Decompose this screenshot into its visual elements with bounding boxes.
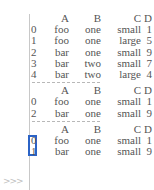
cell-c: small: [103, 108, 141, 119]
cell-a: foo: [39, 35, 69, 46]
cell-a: foo: [39, 96, 69, 107]
row-index: 0: [31, 96, 39, 107]
dataframe-output-2: A B C D 0 foo one small 1 2 bar one smal…: [31, 85, 154, 119]
python-console-output: A B C D 0 foo one small 1 1 foo one larg…: [31, 13, 154, 157]
cell-b: one: [71, 35, 101, 46]
console-gutter-line: [29, 14, 30, 190]
cell-c: small: [103, 96, 141, 107]
row-index: 2: [31, 108, 39, 119]
table-row: 2 bar one small 9: [31, 108, 154, 119]
row-index: 1: [31, 146, 39, 157]
cell-b: one: [71, 146, 101, 157]
cell-d: 5: [143, 35, 152, 46]
cell-c: small: [103, 47, 141, 58]
cell-b: two: [71, 69, 101, 80]
cell-d: 9: [143, 146, 152, 157]
cell-a: bar: [39, 69, 69, 80]
cell-b: one: [71, 108, 101, 119]
row-index: 2: [31, 47, 39, 58]
cell-a: bar: [39, 108, 69, 119]
cell-c: small: [103, 146, 141, 157]
cell-d: 9: [143, 47, 152, 58]
cell-a: bar: [39, 47, 69, 58]
row-index: 4: [31, 69, 39, 80]
cell-d: 9: [143, 108, 152, 119]
table-row: 1 foo one large 5: [31, 35, 154, 46]
cell-b: one: [71, 47, 101, 58]
cell-d: 1: [143, 96, 152, 107]
table-row: 4 bar two large 4: [31, 69, 154, 80]
row-index: 1: [31, 35, 39, 46]
cell-c: large: [103, 35, 141, 46]
cell-a: bar: [39, 146, 69, 157]
cell-c: large: [103, 69, 141, 80]
console-prompt[interactable]: >>>: [3, 176, 23, 186]
table-row: 0 foo one small 1: [31, 96, 154, 107]
dataframe-output-1: A B C D 0 foo one small 1 1 foo one larg…: [31, 13, 154, 80]
table-row: 1 bar one small 9: [31, 146, 154, 157]
cell-d: 4: [143, 69, 152, 80]
dataframe-output-3: A B C D 0 foo one small 1 1 bar one smal…: [31, 124, 154, 158]
cell-b: one: [71, 96, 101, 107]
